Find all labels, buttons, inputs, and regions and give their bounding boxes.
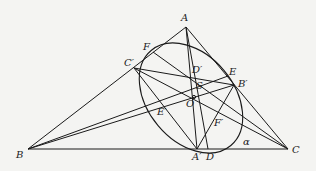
label-E-prime: E′ (157, 107, 167, 117)
label-D-prime: D′ (192, 65, 202, 75)
label-alpha: α (243, 137, 250, 147)
label-E: E (229, 67, 236, 77)
label-D: D (206, 152, 214, 162)
segment-C1-B1 (134, 68, 234, 85)
line-segments (28, 27, 288, 149)
label-F: F (143, 42, 150, 52)
label-B: B (16, 150, 23, 160)
label-F-prime: F′ (214, 118, 223, 128)
label-A-prime: A′ (192, 152, 202, 162)
label-O: O (186, 99, 194, 109)
geometry-figure (0, 0, 316, 171)
label-B-prime: B′ (238, 79, 248, 89)
label-A: A (181, 13, 188, 23)
label-C: C (292, 145, 300, 155)
label-C-prime: C′ (124, 58, 134, 68)
label-S: S (196, 81, 203, 91)
